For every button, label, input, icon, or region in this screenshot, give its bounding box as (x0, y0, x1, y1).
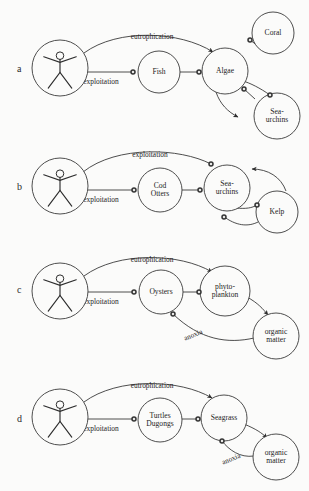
node-label-cod_otters: Otters (151, 189, 170, 198)
link-endpoint-marker (197, 70, 201, 74)
panel-a: aeutrophicationexploitationFishAlgaeCora… (17, 12, 300, 139)
node-label-organic_c: matter (266, 335, 286, 344)
node-seaurchins_a: Sea-urchins (254, 93, 300, 139)
link-endpoint-marker (131, 70, 135, 74)
human-head-icon (56, 401, 64, 409)
node-label-organic_d: matter (266, 456, 286, 465)
human-head-icon (56, 52, 64, 60)
edge-b_kelp_urchin (252, 169, 286, 191)
edge-label-c_anoxia: anoxia (183, 328, 205, 343)
link-endpoint-marker (242, 87, 246, 91)
edge-label-d_anoxia: anoxia (221, 452, 243, 467)
edge-b_urchin_kelp2 (223, 216, 258, 225)
panel-d: deutrophicationexploitationanoxiaTurtles… (17, 381, 299, 480)
edge-label-d_exploit: exploitation (83, 424, 119, 433)
node-organic_d: organicmatter (253, 434, 299, 480)
panel-b: bexploitationexploitationCodOttersSea-ur… (17, 150, 298, 233)
node-organic_c: organicmatter (253, 313, 299, 359)
human-figure-icon (32, 263, 88, 319)
human-figure-icon (32, 40, 88, 96)
link-endpoint-marker (220, 439, 224, 443)
edge-label-b_eutroph: exploitation (132, 150, 168, 159)
node-oysters: Oysters (139, 270, 183, 314)
edge-label-a_eutroph: eutrophication (131, 32, 174, 41)
panel-c: ceutrophicationexploitationanoxiaOysters… (17, 255, 299, 359)
node-label-seagrass: Seagrass (211, 413, 238, 422)
node-label-kelp: Kelp (270, 207, 285, 216)
link-endpoint-marker (209, 162, 213, 166)
human-figure-icon (32, 389, 88, 445)
figure-canvas: aeutrophicationexploitationFishAlgaeCora… (0, 0, 309, 491)
link-endpoint-marker (222, 215, 226, 219)
node-seaurchins_b: Sea-urchins (204, 165, 250, 211)
edge-label-c_eutroph: eutrophication (131, 255, 174, 264)
node-coral: Coral (252, 12, 294, 54)
link-endpoint-marker (132, 417, 136, 421)
node-seagrass: Seagrass (201, 395, 247, 441)
link-endpoint-marker (198, 188, 202, 192)
link-endpoint-marker (268, 93, 272, 97)
panel-letter-b: b (17, 181, 22, 192)
human-head-icon (56, 275, 64, 283)
node-label-seaurchins_b: urchins (216, 187, 238, 196)
link-endpoint-marker (248, 38, 252, 42)
link-endpoint-marker (196, 417, 200, 421)
edge-label-b_exploit: exploitation (83, 195, 119, 204)
human-head-icon (56, 170, 64, 178)
panel-letter-c: c (17, 284, 22, 295)
node-algae: Algae (202, 48, 248, 94)
edge-d_seagrass_organic (244, 424, 267, 438)
panel-letter-a: a (17, 63, 22, 74)
node-kelp: Kelp (256, 191, 298, 233)
edge-c_phyto_organic (247, 297, 268, 315)
node-label-oysters: Oysters (149, 287, 172, 296)
edge-label-a_exploit: exploitation (83, 77, 119, 86)
edge-a_algae_urchin (216, 92, 238, 117)
node-label-seaurchins_a: urchins (266, 115, 288, 124)
node-label-algae: Algae (216, 66, 235, 75)
node-label-coral: Coral (265, 28, 282, 37)
edge-a_urchin_algae2 (243, 81, 270, 95)
edge-label-c_exploit: exploitation (83, 297, 119, 306)
node-label-phytoplankton: plankton (212, 290, 239, 299)
node-label-turtles_dugongs: Dugongs (146, 419, 173, 428)
link-endpoint-marker (255, 203, 259, 207)
node-phytoplankton: phyto-plankton (200, 266, 250, 316)
link-endpoint-marker (171, 312, 175, 316)
link-endpoint-marker (132, 290, 136, 294)
node-cod_otters: CodOtters (138, 168, 182, 212)
human-figure-icon (32, 158, 88, 214)
ecological-network-figure: aeutrophicationexploitationFishAlgaeCora… (0, 0, 309, 491)
node-fish: Fish (138, 51, 180, 93)
link-endpoint-marker (132, 188, 136, 192)
link-endpoint-marker (197, 290, 201, 294)
node-turtles_dugongs: TurtlesDugongs (138, 398, 182, 442)
edge-label-d_eutroph: eutrophication (131, 381, 174, 390)
node-label-fish: Fish (152, 67, 165, 76)
panel-letter-d: d (17, 413, 22, 424)
